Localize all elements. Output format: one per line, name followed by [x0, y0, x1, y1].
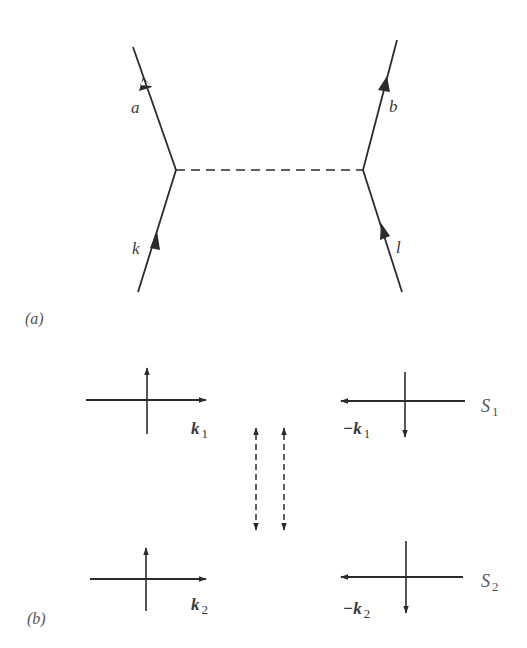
label-s2-sub: 2 [492, 579, 499, 594]
label-k2-vector: k [191, 595, 200, 614]
label-k: k [132, 240, 140, 257]
caption-b: (b) [27, 611, 46, 627]
label-minus-k2-vector: −k [343, 599, 362, 618]
label-k2-sub: 2 [202, 602, 209, 617]
feynman-diagram-figure: a b k l (a) k1 −k1 S1 k2 −k2 S2 (b) [0, 0, 527, 648]
diagram-canvas [0, 0, 527, 648]
caption-a: (a) [25, 311, 44, 327]
panel-a-diagram [133, 40, 402, 292]
label-b: b [389, 98, 398, 115]
label-k1-sub: 1 [202, 426, 209, 441]
label-l: l [396, 239, 401, 256]
exchange-arrows [256, 428, 284, 530]
arrow-k-icon [150, 231, 160, 250]
label-a: a [131, 99, 140, 116]
arrow-b-icon [378, 76, 390, 92]
label-minus-k1-sub: 1 [364, 426, 371, 441]
label-s2: S2 [481, 572, 499, 590]
arrow-l-icon [380, 223, 390, 240]
label-s1: S1 [481, 397, 499, 415]
label-minus-k2-sub: 2 [364, 606, 371, 621]
label-k1-vector: k [191, 419, 200, 438]
label-k2: k2 [191, 596, 208, 613]
label-minus-k1: −k1 [343, 420, 370, 437]
label-s1-name: S [481, 396, 490, 416]
label-k1: k1 [191, 420, 208, 437]
label-minus-k2: −k2 [343, 600, 370, 617]
state-s2 [90, 541, 463, 613]
label-s1-sub: 1 [492, 404, 499, 419]
state-s1 [86, 368, 465, 437]
label-minus-k1-vector: −k [343, 419, 362, 438]
label-s2-name: S [481, 571, 490, 591]
